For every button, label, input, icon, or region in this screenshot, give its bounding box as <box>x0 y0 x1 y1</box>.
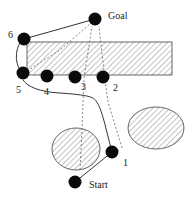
node-2 <box>97 71 110 84</box>
goal-node <box>89 13 102 26</box>
node-6 <box>18 33 31 46</box>
node-4 <box>41 70 54 83</box>
node-5 <box>17 67 30 80</box>
node-4-label: 4 <box>44 86 49 97</box>
node-3 <box>69 71 82 84</box>
path-diagram: Goal 6 5 4 3 2 1 Start <box>0 0 192 199</box>
node-5-label: 5 <box>16 84 21 95</box>
node-1-label: 1 <box>123 157 128 168</box>
node-6-label: 6 <box>8 29 13 40</box>
node-1 <box>106 146 119 159</box>
left-ellipse-obstacle <box>52 128 100 170</box>
start-label: Start <box>89 179 108 190</box>
node-3-label: 3 <box>81 81 86 92</box>
node-2-label: 2 <box>113 82 118 93</box>
goal-label: Goal <box>108 10 128 21</box>
start-node <box>69 176 82 189</box>
right-ellipse-obstacle <box>128 107 184 149</box>
